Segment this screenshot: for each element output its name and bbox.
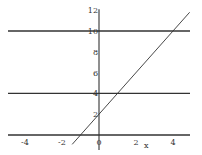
x-tick--4: -4 bbox=[21, 138, 29, 147]
x-axis-label: x bbox=[144, 141, 149, 150]
x-tick-2: 2 bbox=[133, 138, 138, 147]
y-tick-8: 8 bbox=[93, 48, 98, 57]
x-tick-4: 4 bbox=[170, 138, 175, 147]
x-tick--2: -2 bbox=[58, 138, 66, 147]
y-tick-labels: 24681012 bbox=[88, 6, 98, 119]
plot-area: -4-2024 24681012 x bbox=[0, 0, 202, 155]
x-tick-0: 0 bbox=[96, 138, 101, 147]
y-tick-10: 10 bbox=[88, 27, 98, 36]
axes bbox=[8, 9, 190, 150]
y-tick-6: 6 bbox=[93, 69, 98, 78]
y-tick-4: 4 bbox=[93, 89, 98, 98]
y-tick-12: 12 bbox=[88, 6, 98, 15]
x-tick-labels: -4-2024 bbox=[21, 138, 175, 147]
